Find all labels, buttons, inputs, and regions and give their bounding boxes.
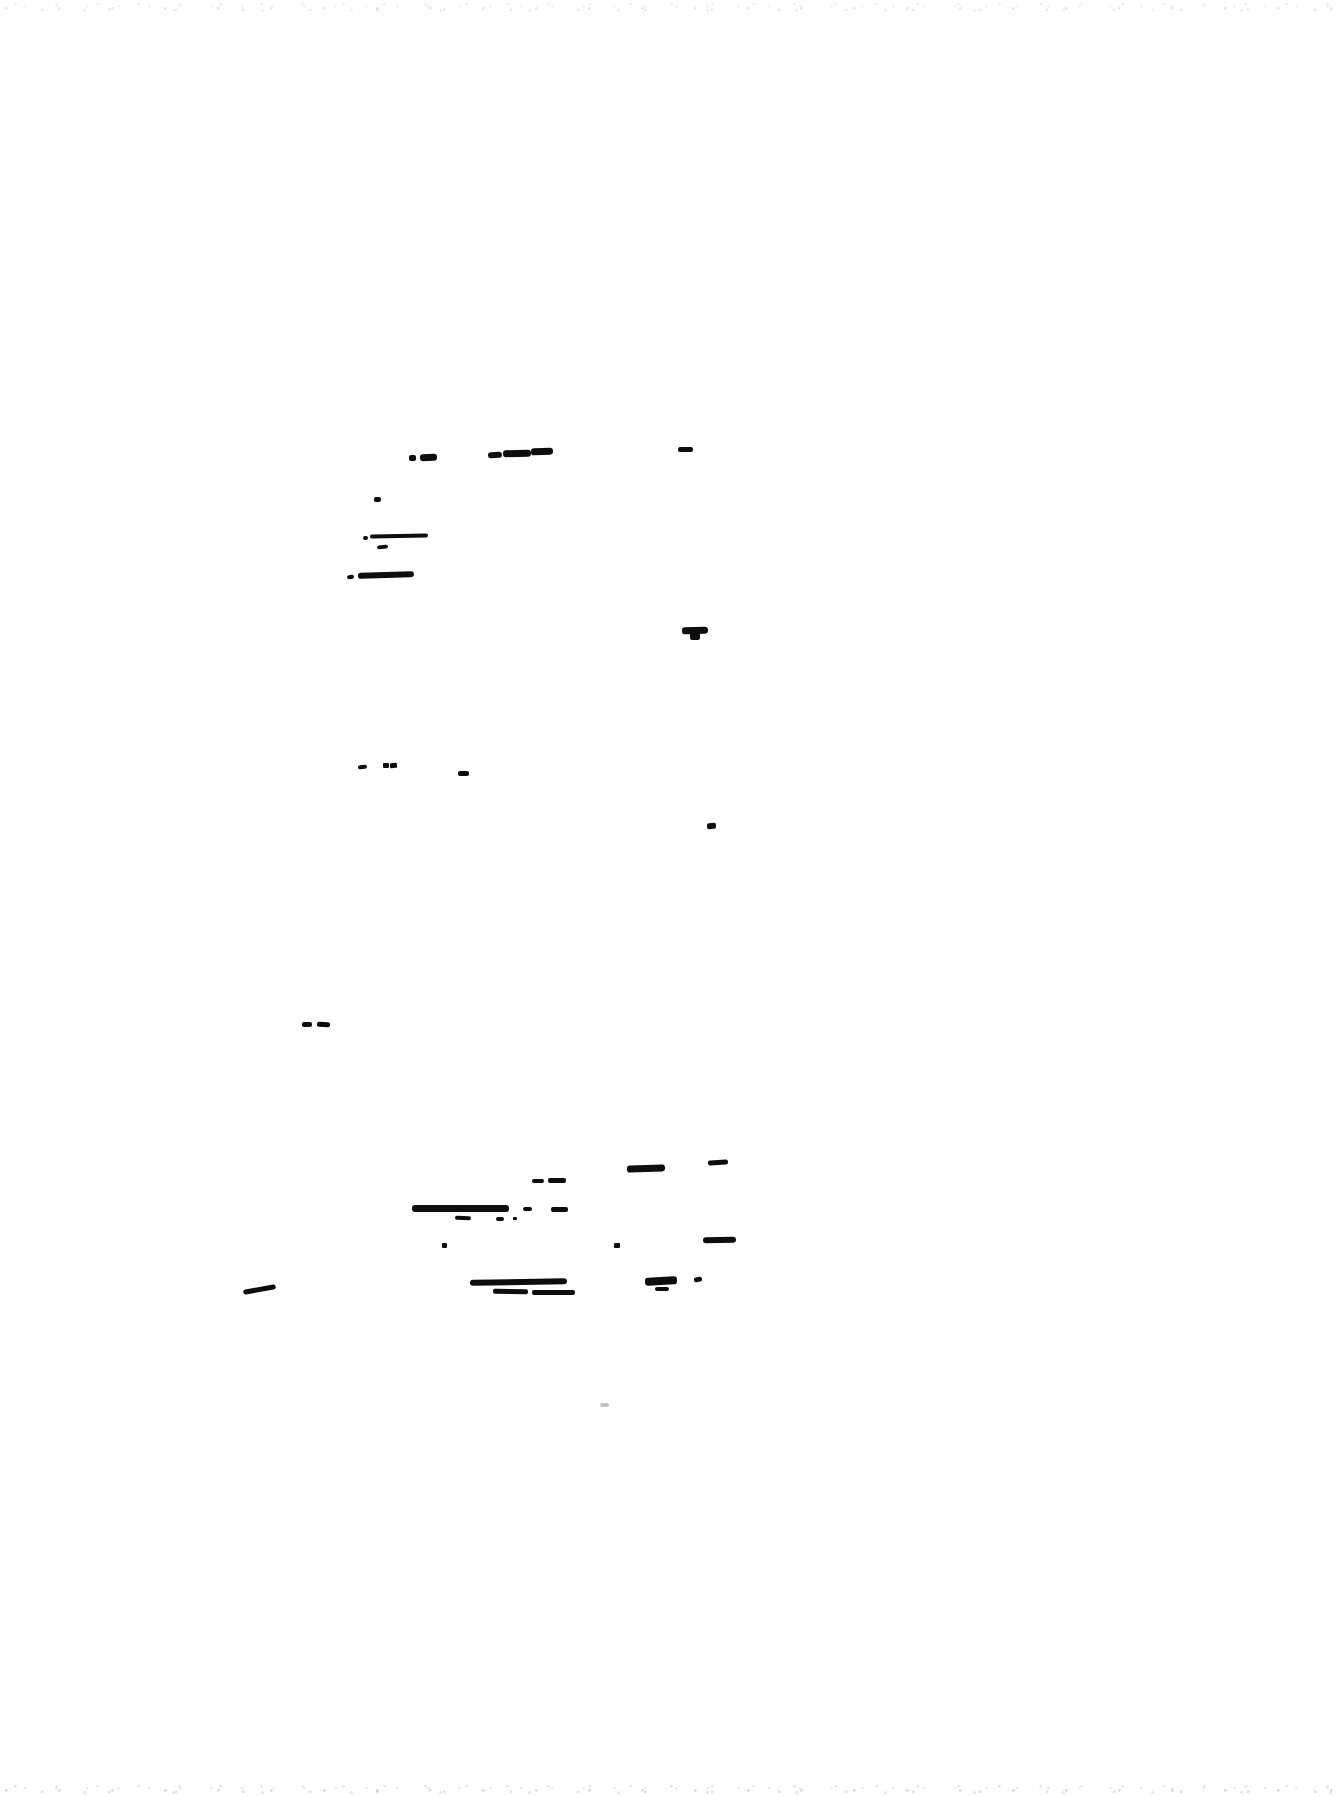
scan-noise-bottom-edge xyxy=(0,1782,1340,1796)
ink-dash xyxy=(523,1207,532,1211)
ink-dash xyxy=(455,1216,471,1221)
ink-dash xyxy=(531,448,553,456)
ink-dot xyxy=(383,763,389,768)
ink-dash-faint xyxy=(600,1403,609,1407)
ink-dash xyxy=(655,1287,669,1291)
ink-dash xyxy=(678,447,693,452)
ink-blob xyxy=(645,1276,677,1286)
ink-dash xyxy=(496,1217,504,1221)
ink-dot xyxy=(374,497,381,502)
ink-dash xyxy=(488,452,502,458)
ink-dash xyxy=(548,1178,566,1183)
ink-blob-stem xyxy=(690,632,700,640)
ink-line xyxy=(627,1164,665,1172)
ink-dot xyxy=(614,1243,620,1248)
ink-dash xyxy=(532,1179,544,1183)
ink-line xyxy=(532,1290,575,1295)
ink-dot xyxy=(390,763,397,768)
ink-line xyxy=(370,533,428,538)
ink-line-long xyxy=(470,1278,567,1286)
ink-dot xyxy=(409,455,416,461)
ink-dot xyxy=(513,1217,517,1220)
ink-stroke-slanted xyxy=(243,1284,276,1295)
ink-dash xyxy=(347,575,354,580)
ink-dash xyxy=(358,764,367,769)
ink-dash xyxy=(317,1022,330,1028)
ink-line xyxy=(358,571,414,579)
ink-squiggle xyxy=(377,544,388,549)
ink-dash xyxy=(707,823,716,829)
ink-dash xyxy=(708,1159,728,1165)
ink-line-long xyxy=(412,1205,509,1212)
ink-dash xyxy=(503,450,531,457)
ink-line xyxy=(703,1237,736,1244)
ink-dot xyxy=(363,536,368,540)
ink-dash xyxy=(302,1022,312,1027)
ink-dash xyxy=(420,454,437,462)
ink-dot xyxy=(694,1276,703,1282)
scanned-page xyxy=(0,0,1340,1796)
ink-dash xyxy=(551,1207,568,1212)
ink-dash xyxy=(458,771,469,776)
scan-noise-top-edge xyxy=(0,0,1340,14)
ink-dot xyxy=(442,1243,447,1248)
ink-line xyxy=(493,1289,528,1295)
